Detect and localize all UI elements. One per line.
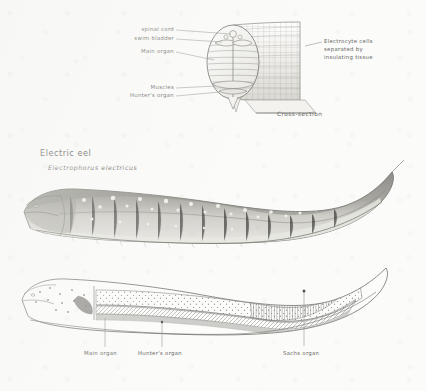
label-sachs-organ: Sachs organ: [283, 350, 319, 357]
schematic-eel-figure: [0, 0, 426, 391]
label-hunters-organ: Hunter's organ: [138, 350, 182, 357]
label-main-organ: Main organ: [84, 350, 117, 357]
illustration-plate: spinal cord swim bladder Main organ Musc…: [0, 0, 426, 391]
